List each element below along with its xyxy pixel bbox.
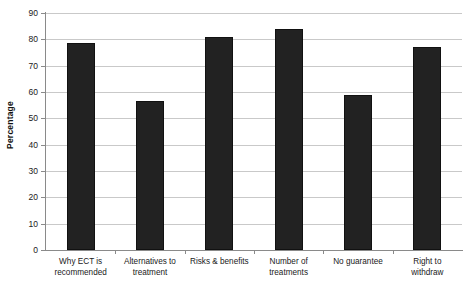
y-tick-label: 20 [0, 193, 38, 202]
bar [205, 37, 233, 250]
x-tick-label: Why ECT isrecommended [44, 256, 118, 278]
x-tick-label-line: withdraw [390, 267, 464, 278]
y-tick-mark [41, 250, 46, 251]
bar [344, 95, 372, 250]
bar-chart: Percentage 0102030405060708090 Why ECT i… [0, 0, 470, 286]
y-tick-label: 10 [0, 220, 38, 229]
x-tick-label-line: Right to [413, 257, 441, 266]
x-tick-label-line: treatment [113, 267, 187, 278]
x-tick-label-line: recommended [44, 267, 118, 278]
x-tick-mark [254, 250, 255, 254]
bar [275, 29, 303, 250]
bar [413, 47, 441, 250]
bar [136, 101, 164, 250]
x-tick-label-line: No guarantee [333, 257, 383, 266]
x-tick-mark [393, 250, 394, 254]
x-tick-label-line: Risks & benefits [190, 257, 249, 266]
x-tick-mark [115, 250, 116, 254]
x-tick-label: Right towithdraw [390, 256, 464, 278]
x-tick-label-line: Alternatives to [124, 257, 176, 266]
x-tick-label-line: treatments [252, 267, 326, 278]
x-tick-label-line: Why ECT is [59, 257, 102, 266]
y-tick-label: 80 [0, 35, 38, 44]
x-tick-label: Alternatives totreatment [113, 256, 187, 278]
y-tick-label: 40 [0, 141, 38, 150]
y-tick-label: 70 [0, 62, 38, 71]
bar [67, 43, 95, 250]
y-tick-label: 0 [0, 246, 38, 255]
y-tick-label: 50 [0, 114, 38, 123]
x-tick-label: Risks & benefits [182, 256, 256, 267]
x-tick-label: No guarantee [321, 256, 395, 267]
bar-series [46, 13, 462, 250]
y-tick-label: 30 [0, 167, 38, 176]
x-tick-mark [323, 250, 324, 254]
y-tick-label: 60 [0, 88, 38, 97]
x-tick-label: Number oftreatments [252, 256, 326, 278]
x-tick-label-line: Number of [270, 257, 308, 266]
x-tick-mark [185, 250, 186, 254]
y-tick-label: 90 [0, 9, 38, 18]
